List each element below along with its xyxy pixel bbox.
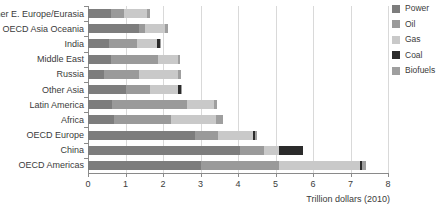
legend-label: Coal (405, 51, 422, 60)
bar-segment-gas (145, 24, 165, 33)
legend-swatch-icon (392, 67, 400, 75)
bar-segment-gas (158, 55, 178, 64)
x-tick-mark (88, 173, 89, 177)
legend-item: Power (392, 4, 448, 13)
x-tick-label: 4 (235, 179, 240, 189)
legend-swatch-icon (392, 20, 400, 28)
y-tick-mark (84, 6, 88, 7)
y-tick-mark (84, 97, 88, 98)
bar-segment-gas (279, 161, 360, 170)
bar-segment-power (88, 70, 104, 79)
y-tick-mark (84, 36, 88, 37)
x-tick-mark (163, 173, 164, 177)
legend-label: Power (405, 4, 429, 13)
bar-segment-biofuels (181, 85, 182, 94)
x-tick-mark (388, 173, 389, 177)
y-tick-mark (84, 52, 88, 53)
bar-segment-oil (126, 85, 150, 94)
bar-row (0, 24, 448, 33)
bar-segment-gas (171, 115, 216, 124)
x-tick-mark (126, 173, 127, 177)
bar-segment-power (88, 161, 201, 170)
y-tick-mark (84, 21, 88, 22)
bar-segment-gas (218, 131, 253, 140)
x-tick-label: 1 (123, 179, 128, 189)
x-tick-mark (276, 173, 277, 177)
bar-segment-power (88, 9, 111, 18)
bar-row (0, 131, 448, 140)
x-tick-label: 3 (198, 179, 203, 189)
bar-row (0, 39, 448, 48)
bar-segment-power (88, 131, 195, 140)
bar-segment-gas (124, 9, 148, 18)
bar-segment-power (88, 146, 240, 155)
legend-swatch-icon (392, 5, 400, 13)
x-tick-label: 5 (273, 179, 278, 189)
bar-segment-gas (139, 70, 178, 79)
bar-row (0, 100, 448, 109)
bar-segment-coal (279, 146, 303, 155)
bar-row (0, 55, 448, 64)
bar-segment-power (88, 39, 109, 48)
bar-segment-oil (240, 146, 264, 155)
bar-segment-biofuels (165, 24, 168, 33)
bar-segment-gas (187, 100, 214, 109)
bar-segment-gas (264, 146, 279, 155)
x-tick-label: 6 (310, 179, 315, 189)
bar-segment-power (88, 55, 111, 64)
bar-segment-oil (109, 39, 137, 48)
legend-item: Coal (392, 51, 448, 60)
bar-segment-biofuels (147, 9, 150, 18)
y-tick-mark (84, 112, 88, 113)
bar-segment-oil (111, 9, 123, 18)
bar-row (0, 9, 448, 18)
bar-segment-oil (112, 100, 187, 109)
x-tick-label: 2 (160, 179, 165, 189)
bar-segment-oil (104, 70, 139, 79)
bar-row (0, 115, 448, 124)
legend-label: Gas (405, 35, 421, 44)
legend-label: Biofuels (405, 66, 435, 75)
x-tick-mark (351, 173, 352, 177)
bar-segment-biofuels (255, 131, 257, 140)
bar-segment-biofuels (160, 39, 161, 48)
bar-segment-power (88, 100, 112, 109)
bar-segment-power (88, 115, 114, 124)
bar-segment-oil (201, 161, 280, 170)
bar-segment-biofuels (362, 161, 365, 170)
legend-label: Oil (405, 20, 415, 29)
bar-segment-power (88, 24, 139, 33)
y-tick-mark (84, 67, 88, 68)
y-tick-mark (84, 127, 88, 128)
bar-segment-biofuels (214, 100, 217, 109)
x-tick-label: 0 (85, 179, 90, 189)
y-tick-mark (84, 82, 88, 83)
bar-row (0, 146, 448, 155)
x-tick-mark (313, 173, 314, 177)
legend-item: Oil (392, 20, 448, 29)
bar-segment-oil (139, 24, 146, 33)
bar-segment-biofuels (178, 55, 180, 64)
bar-segment-gas (150, 85, 178, 94)
bar-segment-oil (195, 131, 218, 140)
bar-row (0, 85, 448, 94)
legend: PowerOilGasCoalBiofuels (392, 4, 448, 82)
bar-chart: 012345678 Other E. Europe/EurasiaOECD As… (0, 0, 448, 211)
legend-item: Gas (392, 35, 448, 44)
bar-row (0, 70, 448, 79)
bar-segment-oil (111, 55, 158, 64)
x-tick-label: 7 (348, 179, 353, 189)
bar-segment-biofuels (178, 70, 181, 79)
y-tick-mark (84, 143, 88, 144)
legend-swatch-icon (392, 51, 400, 59)
x-tick-mark (238, 173, 239, 177)
x-tick-mark (201, 173, 202, 177)
legend-swatch-icon (392, 36, 400, 44)
bar-segment-biofuels (216, 115, 224, 124)
y-tick-mark (84, 158, 88, 159)
legend-item: Biofuels (392, 66, 448, 75)
bar-segment-gas (137, 39, 158, 48)
bar-segment-oil (114, 115, 170, 124)
x-tick-label: 8 (385, 179, 390, 189)
bar-row (0, 161, 448, 170)
